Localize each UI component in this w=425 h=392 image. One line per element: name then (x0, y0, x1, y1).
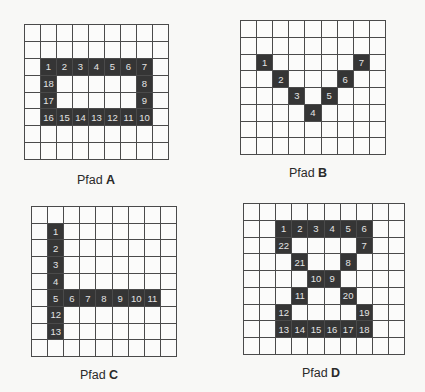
path-cell: 14 (73, 109, 89, 126)
path-cell: 3 (73, 59, 89, 76)
caption-prefix: Pfad (80, 368, 106, 382)
path-cell: 10 (137, 109, 153, 126)
caption-prefix: Pfad (302, 366, 328, 380)
grid-cell (73, 143, 89, 160)
grid-cell (129, 324, 145, 341)
grid-cell (121, 25, 137, 42)
grid-cell (105, 25, 121, 42)
grid-cell (354, 122, 370, 139)
grid-cell (89, 76, 105, 93)
grid-cell (161, 307, 177, 324)
grid-cell (161, 207, 177, 224)
grid-cell (273, 21, 289, 38)
path-cell: 9 (113, 290, 129, 307)
grid-cell (305, 38, 321, 55)
grid-cell (113, 274, 129, 291)
grid-cell (57, 93, 73, 110)
grid-cell (96, 207, 112, 224)
grid-cell (113, 257, 129, 274)
grid-cell (89, 42, 105, 59)
grid-cell (322, 138, 338, 155)
path-cell: 12 (105, 109, 121, 126)
path-cell: 11 (145, 290, 161, 307)
grid-cell (244, 238, 260, 255)
grid-cell (137, 126, 153, 143)
grid-cell (96, 224, 112, 241)
grid-cell (80, 307, 96, 324)
grid-cell (145, 340, 161, 357)
grid-cell (41, 143, 57, 160)
path-cell: 7 (80, 290, 96, 307)
grid-cell (322, 38, 338, 55)
grid-cell (73, 42, 89, 59)
grid-cell (137, 143, 153, 160)
grid-cell (322, 55, 338, 72)
grid-cell (373, 288, 389, 305)
grid-cell (257, 21, 273, 38)
grid-cell (373, 254, 389, 271)
grid-cell (308, 288, 324, 305)
grid-cell (341, 271, 357, 288)
path-cell: 11 (292, 288, 308, 305)
grid-cell (325, 204, 341, 221)
grid-cell (121, 143, 137, 160)
path-cell: 8 (137, 76, 153, 93)
grid-cell (153, 25, 169, 42)
grid-cell (276, 271, 292, 288)
grid-cell (129, 240, 145, 257)
grid-cell (64, 257, 80, 274)
grid-cell (322, 122, 338, 139)
grid-cell (257, 122, 273, 139)
path-cell: 14 (292, 321, 308, 338)
path-cell: 1 (48, 224, 64, 241)
path-cell: 16 (325, 321, 341, 338)
grid-cell (113, 307, 129, 324)
grid-cell (308, 204, 324, 221)
grid-cell (41, 126, 57, 143)
grid-cell (105, 76, 121, 93)
grid-cell (48, 340, 64, 357)
grid-cell (273, 105, 289, 122)
path-cell: 5 (341, 221, 357, 238)
path-cell: 11 (121, 109, 137, 126)
grid-cell (341, 338, 357, 355)
grid-cell (322, 21, 338, 38)
grid-cell (292, 271, 308, 288)
grid-cell (276, 254, 292, 271)
grid-cell (370, 55, 386, 72)
caption-letter: D (331, 366, 340, 380)
grid-cell (129, 307, 145, 324)
grid-cell (96, 324, 112, 341)
grid-cell (357, 338, 373, 355)
grid-cell (257, 71, 273, 88)
grid-cell (25, 42, 41, 59)
grid-cell (276, 204, 292, 221)
grid-cell (389, 288, 405, 305)
grid-cell (145, 257, 161, 274)
grid-cell (48, 207, 64, 224)
grid-cell (25, 76, 41, 93)
grid-cell (370, 71, 386, 88)
grid-cell (260, 271, 276, 288)
grid-cell (32, 274, 48, 291)
path-cell: 22 (276, 238, 292, 255)
path-cell: 5 (48, 290, 64, 307)
grid-cell (338, 122, 354, 139)
caption-pfad-c: Pfad C (80, 368, 118, 382)
path-cell: 20 (341, 288, 357, 305)
grid-cell (80, 240, 96, 257)
grid-cell (57, 25, 73, 42)
grid-cell (57, 143, 73, 160)
grid-cell (145, 307, 161, 324)
grid-cell (289, 105, 305, 122)
grid-cell (305, 21, 321, 38)
grid-cell (389, 338, 405, 355)
grid-cell (292, 305, 308, 322)
grid-cell (273, 122, 289, 139)
grid-cell (273, 88, 289, 105)
grid-cell (161, 340, 177, 357)
grid-cell (305, 122, 321, 139)
grid-cell (373, 305, 389, 322)
grid-cell (161, 224, 177, 241)
grid-pfad-d: 12345622721810911201219131415161718 (243, 203, 405, 355)
